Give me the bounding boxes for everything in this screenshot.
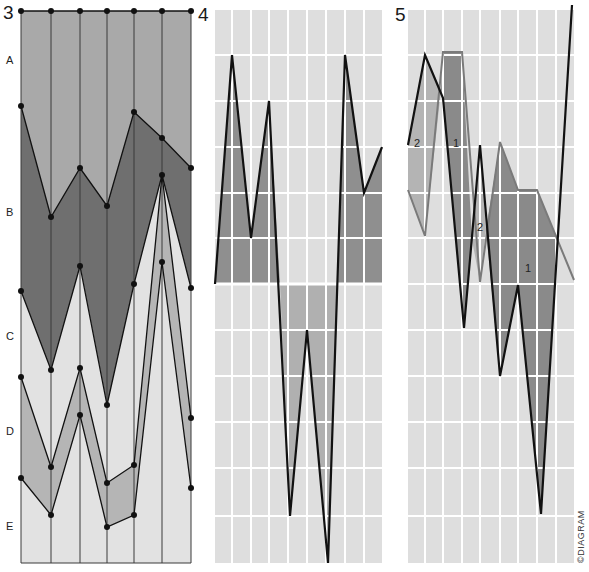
- copyright-credit: ©DIAGRAM: [576, 510, 586, 563]
- chart-4: [215, 10, 382, 563]
- band-label-a: A: [6, 55, 13, 66]
- band-label-d: D: [6, 426, 14, 437]
- chart-3: [18, 8, 194, 563]
- band-label-b: B: [6, 207, 13, 218]
- region-label-2-left: 2: [414, 138, 420, 149]
- chart-5: [408, 5, 574, 563]
- region-label-1-right: 1: [525, 263, 531, 274]
- region-label-1-left: 1: [453, 138, 459, 149]
- charts-canvas: [0, 0, 589, 572]
- panel-number-5: 5: [395, 5, 406, 24]
- region-label-2-mid: 2: [477, 222, 483, 233]
- panel-number-3: 3: [3, 3, 14, 22]
- panel-number-4: 4: [198, 5, 209, 24]
- band-label-e: E: [6, 521, 13, 532]
- diagram-stage: 3 4 5 A B C D E 2 1 2 1 ©DIAGRAM: [0, 0, 589, 572]
- band-label-c: C: [6, 331, 14, 342]
